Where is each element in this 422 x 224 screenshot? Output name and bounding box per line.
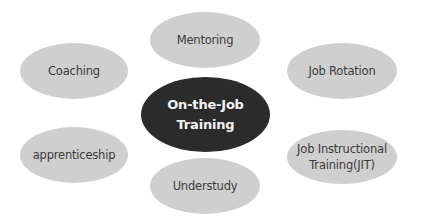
- node-mentoring: Mentoring: [150, 12, 260, 68]
- node-label: apprenticeship: [33, 147, 116, 163]
- node-label: Mentoring: [177, 32, 234, 48]
- node-jit: Job Instructional Training(JIT): [287, 130, 397, 184]
- node-label: Understudy: [173, 178, 238, 194]
- node-coaching: Coaching: [20, 43, 128, 99]
- node-label: Job Instructional Training(JIT): [297, 141, 387, 173]
- node-label: Coaching: [48, 63, 100, 79]
- node-center-otj: On-the-Job Training: [141, 77, 270, 152]
- node-apprenticeship: apprenticeship: [20, 127, 128, 183]
- node-job-rotation: Job Rotation: [287, 43, 397, 99]
- node-label: Job Rotation: [308, 63, 375, 79]
- node-understudy: Understudy: [150, 158, 260, 214]
- center-label: On-the-Job Training: [167, 95, 243, 135]
